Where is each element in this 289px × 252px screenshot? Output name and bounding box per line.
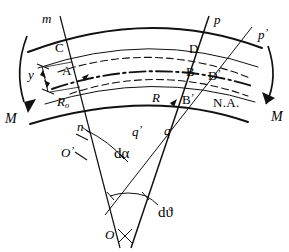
label-p: p	[214, 13, 221, 26]
label-d-theta: dϑ	[158, 205, 173, 220]
label-B-prime-letter: B	[182, 92, 191, 107]
label-D-prime-mark: ’	[217, 67, 221, 79]
label-R0-letter: R	[57, 94, 65, 109]
label-p-prime-mark: ’	[265, 26, 269, 38]
label-q-prime-mark: ’	[139, 123, 143, 135]
tick-O	[118, 229, 132, 243]
dimension-y-arrow-bottom	[44, 80, 50, 88]
radial-line-pq-prime	[105, 27, 252, 215]
label-neutral-axis: N.A.	[213, 96, 239, 109]
label-O: O	[105, 228, 114, 241]
label-B-prime: B’	[182, 92, 194, 106]
label-A: A	[62, 64, 71, 77]
dashed-arc-upper	[58, 57, 250, 78]
dimension-y-line	[42, 66, 48, 92]
label-D-prime: D’	[208, 68, 221, 82]
tick-O-prime	[75, 152, 87, 160]
label-R0: Ro	[57, 95, 69, 110]
label-q: q	[164, 124, 171, 137]
label-p-prime: p’	[258, 27, 268, 41]
moment-arrow-left	[20, 36, 27, 102]
label-O-prime-mark: ’	[70, 144, 74, 156]
label-R: R	[152, 91, 160, 104]
angle-arc-d-theta-tail	[146, 196, 158, 205]
label-M-right: M	[271, 110, 283, 124]
moment-arrowhead-right	[262, 92, 275, 104]
label-M-left: M	[5, 112, 17, 126]
curved-beam-bending-diagram	[0, 0, 289, 252]
label-n: n	[77, 120, 84, 133]
angle-arc-d-theta-tick-1	[107, 192, 114, 200]
label-q-prime: q’	[132, 124, 142, 138]
label-y: y	[28, 68, 34, 81]
moment-arrowhead-left	[24, 99, 36, 113]
label-O-prime-letter: O	[61, 145, 70, 160]
label-D: D	[189, 42, 198, 55]
tick-n	[76, 134, 88, 140]
label-D-prime-letter: D	[208, 68, 217, 83]
label-B: B	[186, 65, 195, 78]
label-B-prime-mark: ’	[191, 91, 195, 103]
dimension-y-arrow-top	[40, 70, 46, 78]
label-d-alpha: dα	[114, 146, 129, 161]
label-C: C	[55, 41, 64, 54]
angle-arc-d-theta	[110, 193, 146, 196]
label-R0-subscript: o	[65, 100, 69, 110]
label-O-prime: O’	[61, 145, 74, 159]
label-m: m	[42, 12, 51, 25]
